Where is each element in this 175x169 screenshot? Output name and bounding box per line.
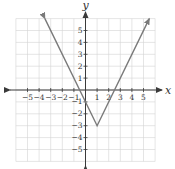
x-tick-label: −3 [45, 93, 56, 102]
y-tick-label: 2 [78, 62, 83, 71]
y-tick-label: −5 [71, 145, 82, 154]
x-axis-label: x [165, 84, 172, 97]
y-tick-label: −4 [71, 133, 82, 142]
x-tick-label: 3 [118, 93, 123, 102]
x-tick-label: −5 [22, 93, 33, 102]
x-tick-label: 5 [141, 93, 146, 102]
coordinate-plane: x y −5−4−3−2−11234554321−1−2−3−4−5 [0, 0, 175, 169]
y-tick-label: −2 [71, 109, 82, 118]
y-tick-label: 5 [78, 26, 83, 35]
x-tick-label: 4 [130, 93, 135, 102]
y-tick-label: 3 [78, 50, 83, 59]
y-axis: y [82, 0, 90, 166]
y-tick-label: −3 [71, 121, 82, 130]
x-tick-label: 1 [95, 93, 100, 102]
x-tick-label: −4 [34, 93, 45, 102]
x-tick-label: −2 [57, 93, 68, 102]
y-tick-label: 1 [78, 74, 83, 83]
y-tick-label: −1 [71, 97, 82, 106]
y-tick-label: 4 [78, 38, 83, 47]
y-axis-label: y [82, 0, 90, 12]
